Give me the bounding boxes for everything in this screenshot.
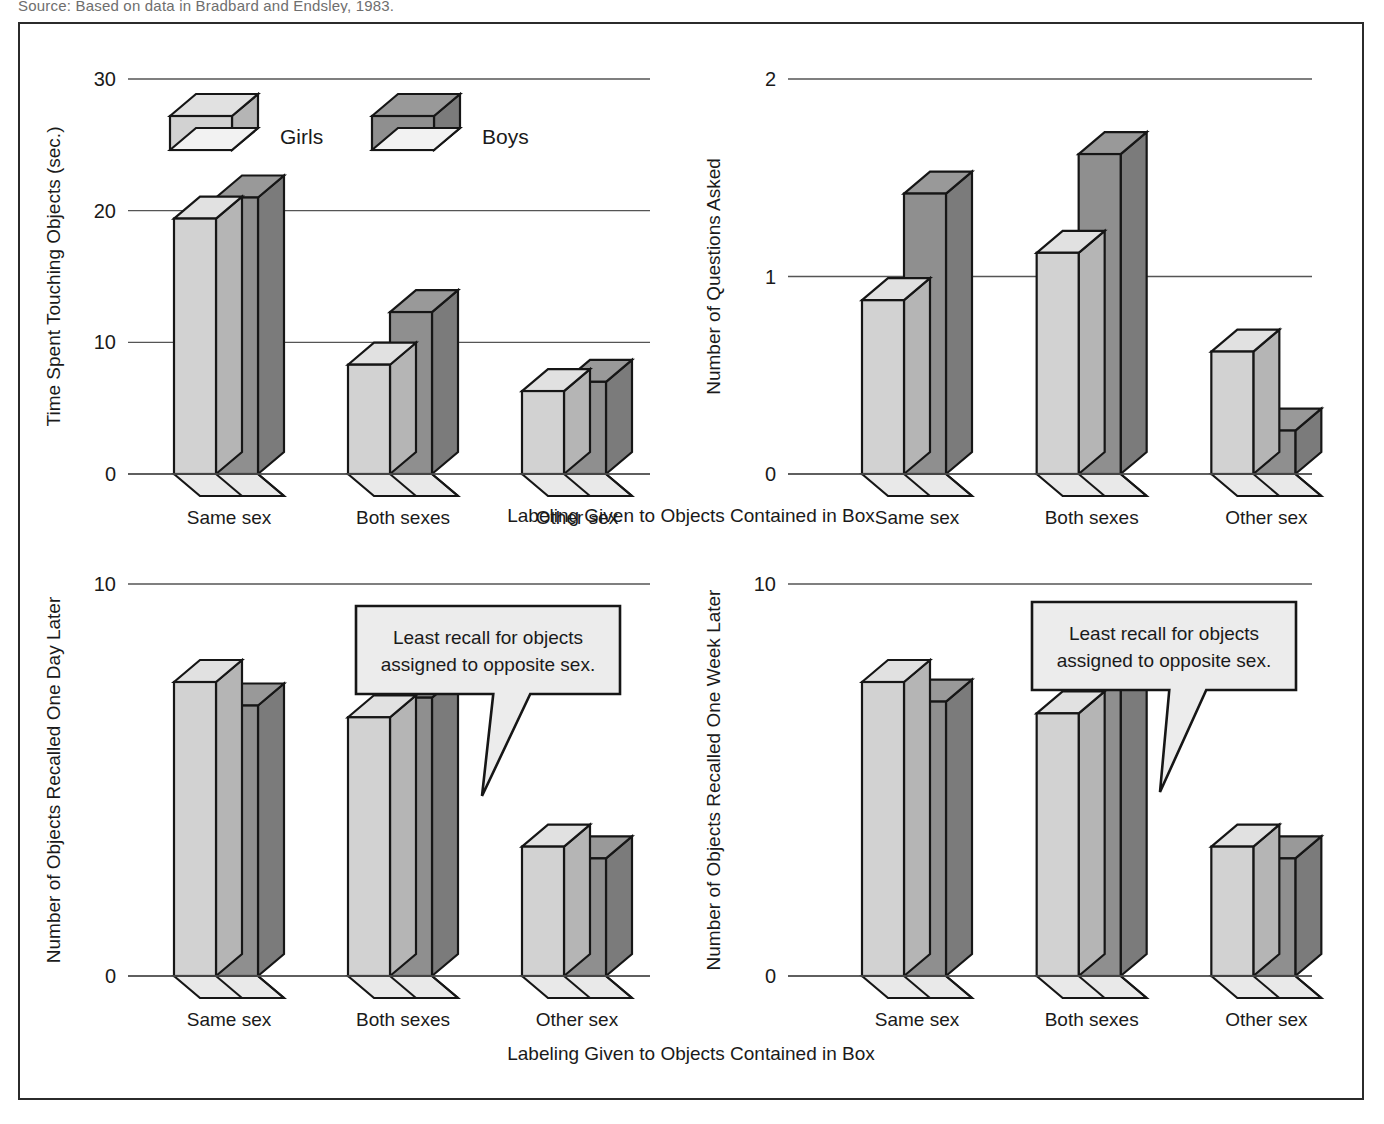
chart-questions: 012Number of Questions AskedSame sexBoth…	[680, 24, 1360, 544]
legend-label-girls: Girls	[280, 125, 323, 148]
x-tick-label: Same sex	[187, 1009, 272, 1030]
x-tick-label: Other sex	[536, 1009, 619, 1030]
bar-side	[946, 172, 972, 474]
bar-front	[1211, 352, 1253, 474]
bar-girls	[174, 660, 242, 976]
bar-girls	[862, 660, 930, 976]
bar-side	[390, 695, 416, 976]
bar-front	[1037, 713, 1079, 976]
bar-side	[258, 176, 284, 475]
bar-side	[1295, 836, 1321, 976]
bar-girls	[174, 197, 242, 474]
bar-side	[946, 680, 972, 976]
callout-line-1: Least recall for objects	[1069, 623, 1259, 644]
bar-front	[1211, 847, 1253, 976]
figure-frame: 0102030Time Spent Touching Objects (sec.…	[18, 22, 1364, 1100]
y-tick-label: 0	[765, 463, 776, 485]
bar-group	[1211, 330, 1321, 474]
bar-girls	[862, 278, 930, 474]
bar-girls	[348, 695, 416, 976]
y-tick-label: 30	[94, 68, 116, 90]
bar-side	[216, 197, 242, 474]
bar-group	[348, 290, 458, 474]
bar-group	[522, 360, 632, 474]
callout-line-2: assigned to opposite sex.	[1057, 650, 1271, 671]
legend-label-boys: Boys	[482, 125, 529, 148]
bar-front	[522, 847, 564, 976]
bar-group	[174, 176, 284, 475]
y-axis-title: Number of Objects Recalled One Week Late…	[703, 589, 724, 971]
bar-front	[174, 682, 216, 976]
plot-area: 012Number of Questions AskedSame sexBoth…	[703, 68, 1321, 528]
bar-side	[1079, 231, 1105, 474]
bar-side	[1121, 668, 1147, 976]
y-tick-label: 0	[105, 965, 116, 987]
bar-front	[174, 219, 216, 474]
bar-group	[522, 825, 632, 976]
bar-side	[904, 278, 930, 474]
y-tick-label: 10	[754, 573, 776, 595]
y-tick-label: 2	[765, 68, 776, 90]
panel-recall-week: 010Number of Objects Recalled One Week L…	[680, 534, 1360, 1064]
bar-side	[1121, 132, 1147, 474]
bar-side	[432, 676, 458, 976]
y-axis-title: Number of Objects Recalled One Day Later	[43, 596, 64, 963]
bar-side	[216, 660, 242, 976]
chart-recall-week: 010Number of Objects Recalled One Week L…	[680, 534, 1360, 1064]
panel-touching: 0102030Time Spent Touching Objects (sec.…	[20, 24, 680, 544]
chart-touching: 0102030Time Spent Touching Objects (sec.…	[20, 24, 680, 544]
callout-line-2: assigned to opposite sex.	[381, 654, 595, 675]
bar-side	[1253, 825, 1279, 976]
bar-front	[862, 300, 904, 474]
y-tick-label: 1	[765, 266, 776, 288]
x-tick-label: Both sexes	[356, 1009, 450, 1030]
bar-girls	[1037, 231, 1105, 474]
y-axis-title: Time Spent Touching Objects (sec.)	[43, 127, 64, 427]
panel-questions: 012Number of Questions AskedSame sexBoth…	[680, 24, 1360, 544]
bar-side	[1079, 691, 1105, 976]
xaxis-title-top: Labeling Given to Objects Contained in B…	[20, 505, 1362, 527]
callout-line-1: Least recall for objects	[393, 627, 583, 648]
bar-girls	[1037, 691, 1105, 976]
bar-group	[1037, 668, 1147, 976]
xaxis-title-bottom: Labeling Given to Objects Contained in B…	[20, 1043, 1362, 1065]
legend-key-girls	[170, 94, 258, 150]
bar-front	[1037, 253, 1079, 474]
y-tick-label: 10	[94, 573, 116, 595]
bar-girls	[522, 369, 590, 474]
panel-recall-day: 010Number of Objects Recalled One Day La…	[20, 534, 680, 1064]
bar-front	[348, 717, 390, 976]
y-tick-label: 0	[765, 965, 776, 987]
chart-recall-day: 010Number of Objects Recalled One Day La…	[20, 534, 680, 1064]
bar-front	[522, 391, 564, 474]
plot-area: 0102030Time Spent Touching Objects (sec.…	[43, 68, 650, 528]
bar-side	[606, 836, 632, 976]
bar-group	[1211, 825, 1321, 976]
y-axis-title: Number of Questions Asked	[703, 158, 724, 395]
x-tick-label: Both sexes	[1045, 1009, 1139, 1030]
bar-girls	[1211, 330, 1279, 474]
x-tick-label: Other sex	[1225, 1009, 1308, 1030]
bar-side	[432, 290, 458, 474]
bar-front	[348, 365, 390, 474]
bar-side	[258, 684, 284, 976]
source-note: Source: Based on data in Bradbard and En…	[18, 0, 778, 13]
y-tick-label: 20	[94, 200, 116, 222]
bar-side	[1253, 330, 1279, 474]
y-tick-label: 10	[94, 331, 116, 353]
bar-group	[348, 676, 458, 976]
bar-group	[174, 660, 284, 976]
y-tick-label: 0	[105, 463, 116, 485]
legend-key-boys	[372, 94, 460, 150]
bar-girls	[348, 343, 416, 474]
bar-side	[564, 825, 590, 976]
bar-girls	[522, 825, 590, 976]
bar-group	[862, 172, 972, 474]
bar-front	[862, 682, 904, 976]
x-tick-label: Same sex	[875, 1009, 960, 1030]
bar-group	[1037, 132, 1147, 474]
legend: GirlsBoys	[170, 94, 529, 150]
bar-side	[904, 660, 930, 976]
figure-root: Source: Based on data in Bradbard and En…	[0, 0, 1384, 1124]
bar-group	[862, 660, 972, 976]
